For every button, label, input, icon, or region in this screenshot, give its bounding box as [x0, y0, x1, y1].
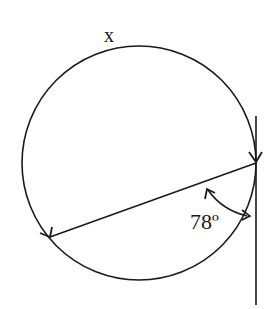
chord: [50, 163, 256, 237]
circle-tangent-diagram: x 78º: [0, 0, 274, 309]
circle: [22, 46, 256, 280]
angle-label: 78º: [190, 209, 219, 234]
arc-label-x: x: [104, 24, 114, 46]
